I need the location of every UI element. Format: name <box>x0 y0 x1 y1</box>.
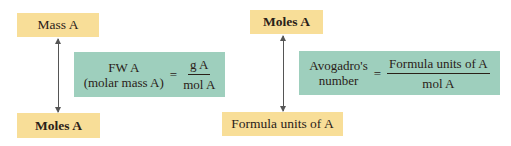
avogadro-formula-box: Avogadro's number = Formula units of A m… <box>299 51 500 95</box>
double-arrow-icon <box>58 39 59 112</box>
moles-a-label: Moles A <box>35 118 82 134</box>
equals-sign: = <box>374 66 381 81</box>
molar-mass-formula-box: FW A (molar mass A) = g A mol A <box>74 52 225 97</box>
denominator: mol A <box>183 75 215 92</box>
moles-a-box-right: Moles A <box>250 10 323 34</box>
denominator: mol A <box>422 74 454 91</box>
formula-units-label: Formula units of A <box>231 116 333 132</box>
double-arrow-icon <box>283 36 284 111</box>
formula-fraction: Formula units of A mol A <box>387 56 490 91</box>
moles-a-label: Moles A <box>263 14 310 30</box>
equals-sign: = <box>170 67 177 82</box>
mass-a-label: Mass A <box>38 17 79 33</box>
formula-fraction: g A mol A <box>183 57 215 92</box>
moles-a-box-left: Moles A <box>17 113 100 138</box>
numerator: Formula units of A <box>387 56 490 74</box>
mass-a-box: Mass A <box>17 13 99 37</box>
numerator: g A <box>188 57 210 75</box>
formula-units-box: Formula units of A <box>222 112 343 136</box>
formula-lhs: Avogadro's number <box>309 58 367 88</box>
formula-lhs: FW A (molar mass A) <box>84 60 164 90</box>
